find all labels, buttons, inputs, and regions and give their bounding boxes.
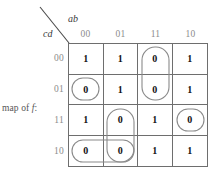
kmap-cell-r1c2[interactable]: 0	[138, 75, 173, 106]
kmap-cell-r1c1[interactable]: 1	[104, 75, 139, 106]
kmap-cell-r0c0[interactable]: 1	[69, 44, 104, 75]
kmap-cell-r2c0[interactable]: 1	[69, 105, 104, 136]
kmap-cell-r0c3[interactable]: 1	[173, 44, 208, 75]
figure-caption: map of f:	[2, 103, 37, 113]
kmap-cell-r3c1[interactable]: 0	[104, 136, 139, 167]
caption-suffix: :	[34, 103, 37, 113]
row-header-0: 00	[44, 43, 64, 74]
kmap-cell-r3c2[interactable]: 1	[138, 136, 173, 167]
column-header-2: 11	[138, 29, 173, 39]
kmap-cell-r3c3[interactable]: 1	[173, 136, 208, 167]
axis-diagonal-icon	[38, 5, 74, 47]
caption-prefix: map of	[2, 103, 32, 113]
kmap-cell-r2c3[interactable]: 0	[173, 105, 208, 136]
kmap-grid: 1 1 0 1 0 1 0 1 1 0 1 0 0 0 1 1	[68, 43, 208, 167]
kmap-cell-r1c0[interactable]: 0	[69, 75, 104, 106]
column-header-3: 10	[173, 29, 208, 39]
kmap-figure: map of f: ab cd 00 01 11 10 00 01 11 10 …	[0, 0, 224, 181]
axis-label-cd: cd	[43, 28, 52, 39]
kmap-cell-r0c1[interactable]: 1	[104, 44, 139, 75]
kmap-cell-r3c0[interactable]: 0	[69, 136, 104, 167]
axis-label-ab: ab	[68, 13, 78, 24]
row-header-1: 01	[44, 74, 64, 105]
kmap-cell-r1c3[interactable]: 1	[173, 75, 208, 106]
kmap-cell-r2c1[interactable]: 0	[104, 105, 139, 136]
column-header-1: 01	[103, 29, 138, 39]
row-header-3: 10	[44, 136, 64, 167]
kmap-cell-r0c2[interactable]: 0	[138, 44, 173, 75]
column-header-0: 00	[68, 29, 103, 39]
kmap-cell-r2c2[interactable]: 1	[138, 105, 173, 136]
row-header-2: 11	[44, 105, 64, 136]
